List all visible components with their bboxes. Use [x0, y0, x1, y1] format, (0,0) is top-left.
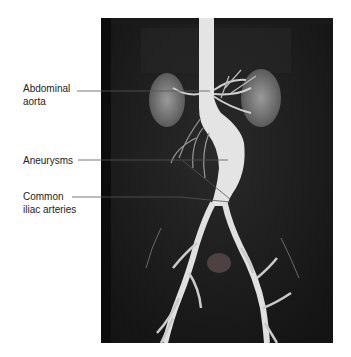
- label-common-iliac-arteries: Common iliac arteries: [23, 190, 76, 216]
- right-kidney: [241, 69, 281, 127]
- label-abdominal-aorta: Abdominal aorta: [23, 82, 70, 108]
- label-aneurysms-line1: Aneurysms: [23, 154, 73, 167]
- label-common-iliac-line1: Common: [23, 190, 76, 203]
- label-aneurysms: Aneurysms: [23, 154, 73, 167]
- label-abdominal-aorta-line2: aorta: [23, 95, 70, 108]
- left-kidney: [149, 73, 185, 127]
- label-common-iliac-line2: iliac arteries: [23, 203, 76, 216]
- angiogram-graphic: [101, 18, 333, 343]
- angiogram-image: [101, 18, 333, 343]
- label-abdominal-aorta-line1: Abdominal: [23, 82, 70, 95]
